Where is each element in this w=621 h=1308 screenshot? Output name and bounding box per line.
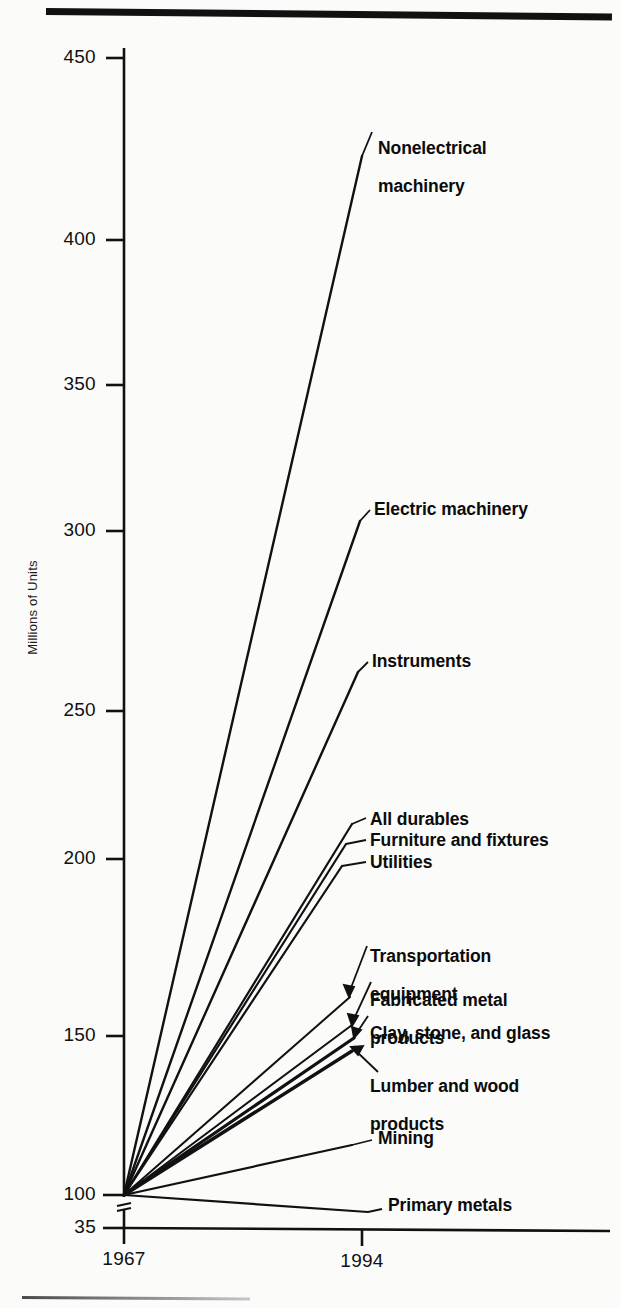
arrow-transportation-equipment — [344, 946, 367, 997]
series-label-nonelectrical-machinery: Nonelectrical machinery — [378, 120, 487, 196]
figure-container: Millions of Units 450 400 350 300 250 20… — [0, 0, 621, 1308]
y-axis-ticks — [103, 58, 124, 1228]
y-tick-label-450: 450 — [24, 46, 96, 68]
series-label-transportation-equipment-line1: Transportation — [370, 946, 491, 966]
leader-electric-machinery — [360, 510, 370, 521]
axis-break-icon — [117, 1203, 131, 1211]
x-tick-label-1967: 1967 — [74, 1248, 174, 1270]
series-label-primary-metals: Primary metals — [388, 1196, 512, 1215]
y-tick-label-35: 35 — [24, 1216, 96, 1238]
series-line-electric-machinery — [124, 521, 360, 1195]
series-label-nonelectrical-machinery-line2: machinery — [378, 176, 465, 196]
leader-instruments — [358, 662, 368, 672]
series-line-lumber-and-wood-products — [124, 1051, 352, 1195]
chart-plot-area — [0, 0, 621, 1308]
series-label-lumber-and-wood-products-line1: Lumber and wood — [370, 1076, 519, 1096]
leader-furniture-and-fixtures — [346, 840, 366, 844]
series-line-primary-metals — [124, 1195, 368, 1212]
series-label-instruments: Instruments — [372, 652, 471, 671]
series-lines — [124, 156, 368, 1212]
leader-mining — [352, 1140, 372, 1145]
series-label-nonelectrical-machinery-line1: Nonelectrical — [378, 138, 487, 158]
y-tick-label-250: 250 — [24, 699, 96, 721]
leader-utilities — [342, 862, 366, 866]
y-tick-label-400: 400 — [24, 228, 96, 250]
x-tick-label-1994: 1994 — [312, 1250, 412, 1272]
series-label-all-durables: All durables — [370, 810, 469, 829]
series-line-utilities — [124, 866, 342, 1195]
series-line-furniture-and-fixtures — [124, 844, 346, 1195]
x-axis-line — [124, 1228, 610, 1231]
series-label-electric-machinery: Electric machinery — [374, 500, 528, 519]
leader-lines — [342, 132, 382, 1212]
y-tick-label-300: 300 — [24, 519, 96, 541]
x-axis-ticks — [124, 1228, 362, 1246]
series-label-mining: Mining — [378, 1129, 434, 1148]
series-line-nonelectrical-machinery — [124, 156, 362, 1195]
series-label-furniture-and-fixtures: Furniture and fixtures — [370, 831, 549, 850]
series-label-clay-stone-and-glass: Clay, stone, and glass — [370, 1024, 550, 1043]
leader-nonelectrical-machinery — [362, 132, 372, 156]
series-label-utilities: Utilities — [370, 853, 432, 872]
y-tick-label-150: 150 — [24, 1024, 96, 1046]
y-axis-title: Millions of Units — [25, 538, 40, 678]
series-label-fabricated-metal-products-line1: Fabricated metal — [370, 990, 507, 1010]
y-tick-label-350: 350 — [24, 373, 96, 395]
leader-primary-metals — [368, 1209, 382, 1212]
leader-all-durables — [352, 818, 366, 824]
series-label-lumber-and-wood-products: Lumber and wood products — [370, 1058, 519, 1134]
y-tick-label-200: 200 — [24, 847, 96, 869]
axis-lines — [124, 48, 610, 1231]
y-tick-label-100: 100 — [24, 1183, 96, 1205]
